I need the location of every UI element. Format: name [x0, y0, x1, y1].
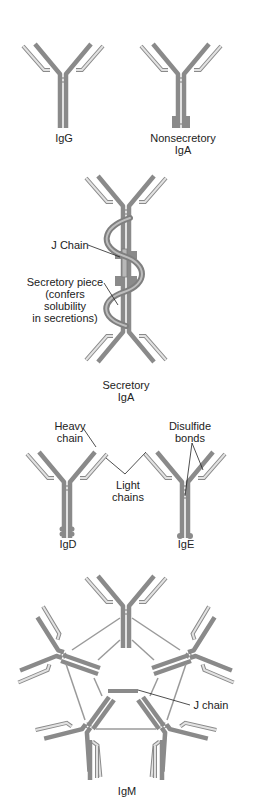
secretory-iga-molecule	[86, 176, 166, 362]
disulfide-line1: Disulfide	[162, 420, 218, 432]
heavy-chain-label: Heavy chain	[52, 420, 88, 444]
heavy-chain-line1: Heavy	[52, 420, 88, 432]
secretory-piece-line2: (confers	[24, 288, 106, 300]
nonsecretory-iga-label: Nonsecretory IgA	[148, 132, 218, 156]
igm-label: IgM	[114, 785, 140, 797]
secretory-piece-label: Secretory piece (confers solubility in s…	[24, 276, 106, 324]
secretory-iga-label-line2: IgA	[96, 391, 156, 403]
nonsecretory-iga-label-line2: IgA	[148, 144, 218, 156]
light-chains-leader	[106, 452, 146, 474]
nonsecretory-iga-molecule	[141, 44, 221, 128]
immunoglobulin-diagram	[0, 0, 264, 807]
heavy-chain-line2: chain	[52, 432, 88, 444]
igm-molecule	[16, 576, 235, 780]
light-chains-label: Light chains	[108, 479, 148, 503]
secretory-piece-line3: solubility	[24, 300, 106, 312]
secretory-piece-line4: in secretions)	[24, 312, 106, 324]
light-chains-line2: chains	[108, 491, 148, 503]
igg-label: IgG	[52, 132, 76, 144]
igd-label: IgD	[56, 538, 80, 550]
ige-label: IgE	[174, 538, 198, 550]
igd-molecule	[27, 452, 107, 538]
secretory-iga-label-line1: Secretory	[96, 379, 156, 391]
igg-molecule	[23, 44, 103, 128]
disulfide-line2: bonds	[162, 432, 218, 444]
secretory-piece-line1: Secretory piece	[24, 276, 106, 288]
igm-j-chain-label: J chain	[191, 699, 231, 711]
light-chains-line1: Light	[108, 479, 148, 491]
secretory-iga-label: Secretory IgA	[96, 379, 156, 403]
nonsecretory-iga-label-line1: Nonsecretory	[148, 132, 218, 144]
j-chain-label: J Chain	[50, 239, 90, 251]
disulfide-bonds-label: Disulfide bonds	[162, 420, 218, 444]
